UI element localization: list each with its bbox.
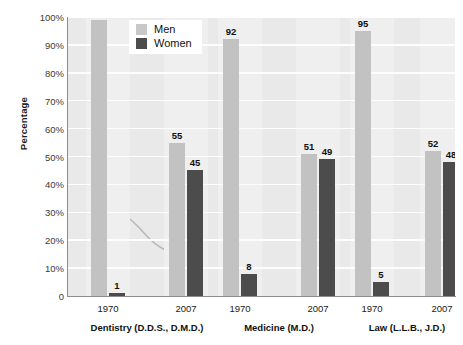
x-axis-tick-label: 2007 [431, 303, 452, 314]
chart-legend: MenWomen [129, 20, 202, 54]
x-axis-line [67, 296, 456, 297]
bar-women [443, 162, 455, 296]
gridline [68, 100, 455, 102]
gridline [68, 72, 455, 74]
bar-value-label-men: 55 [163, 130, 191, 141]
bar-women [241, 274, 257, 296]
bar-value-label-men: 92 [217, 26, 245, 37]
x-axis-group-label: Law (L.L.B., J.D.) [369, 322, 446, 333]
bar-women [373, 282, 389, 296]
bar-men [301, 154, 317, 296]
y-axis-tick-label: 20% [2, 235, 64, 246]
y-axis-line [67, 17, 68, 297]
bar-value-label-women: 1 [103, 280, 131, 291]
bar-value-label-women: 48 [437, 149, 455, 160]
y-axis-tick-label: 100% [2, 12, 64, 23]
x-axis-group-label: Dentistry (D.D.S., D.M.D.) [91, 322, 204, 333]
plot-area: 991554592851499555248 [68, 17, 455, 296]
legend-swatch-icon [136, 38, 147, 49]
bar-chart: Percentage 010%20%30%40%50%60%70%80%90%1… [0, 0, 463, 345]
bar-value-label-women: 49 [313, 146, 341, 157]
legend-label: Men [154, 24, 175, 35]
gridline [68, 239, 455, 241]
x-axis-tick-label: 1970 [97, 303, 118, 314]
bar-men [91, 20, 107, 296]
y-axis-tick-label: 80% [2, 67, 64, 78]
gridline [68, 17, 455, 18]
bar-women [319, 159, 335, 296]
y-axis-tick-label: 60% [2, 123, 64, 134]
y-axis-tick-label: 50% [2, 151, 64, 162]
gridline [68, 212, 455, 214]
gridline [68, 128, 455, 130]
x-axis-group-label: Medicine (M.D.) [244, 322, 314, 333]
x-axis-tick-label: 1970 [229, 303, 250, 314]
legend-swatch-icon [136, 24, 147, 35]
y-axis-tick-label: 90% [2, 39, 64, 50]
y-axis-tick-label: 0 [2, 291, 64, 302]
gridline [68, 44, 455, 46]
bar-value-label-women: 5 [367, 269, 395, 280]
bar-men [425, 151, 441, 296]
y-axis-tick-label: 70% [2, 95, 64, 106]
x-axis-tick-label: 2007 [175, 303, 196, 314]
bar-men [355, 31, 371, 296]
x-axis-tick-label: 1970 [361, 303, 382, 314]
y-axis-tick-label: 30% [2, 207, 64, 218]
legend-item: Women [136, 38, 192, 49]
legend-item: Men [136, 24, 192, 35]
bar-value-label-men: 99 [85, 17, 113, 18]
bar-men [223, 39, 239, 296]
legend-label: Women [154, 38, 192, 49]
bar-value-label-men: 52 [419, 138, 447, 149]
y-axis-tick-labels: 010%20%30%40%50%60%70%80%90%100% [0, 0, 64, 345]
gridline [68, 184, 455, 186]
y-axis-tick-label: 40% [2, 179, 64, 190]
bar-women [187, 170, 203, 296]
bar-value-label-women: 45 [181, 157, 209, 168]
x-axis-tick-label: 2007 [307, 303, 328, 314]
gridline [68, 156, 455, 158]
bar-value-label-women: 8 [235, 261, 263, 272]
bar-value-label-men: 95 [349, 18, 377, 29]
y-axis-tick-label: 10% [2, 263, 64, 274]
